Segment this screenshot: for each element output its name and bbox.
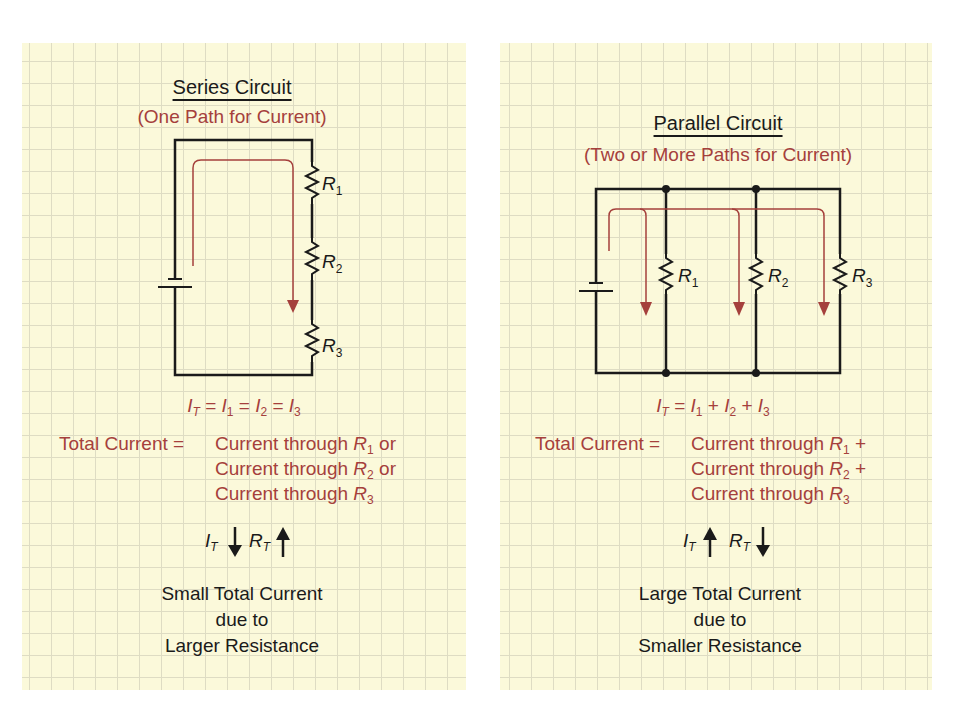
parallel-summary-line: Large Total Current [639, 583, 801, 605]
parallel-trend-resistance: RT [729, 530, 750, 558]
parallel-summary-line: due to [694, 609, 747, 631]
arrow-down-icon [756, 527, 770, 557]
parallel-summary-line: Smaller Resistance [638, 635, 802, 657]
arrow-up-icon [703, 527, 717, 557]
parallel-trend-arrows [0, 0, 964, 715]
